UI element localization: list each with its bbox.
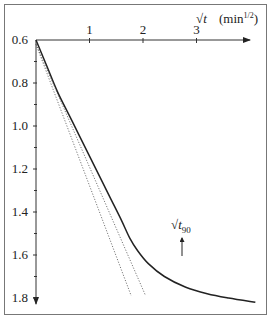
t90-label: √t90 xyxy=(171,217,191,235)
y-tick-label: 0.6 xyxy=(12,32,29,47)
tangent-line xyxy=(36,44,131,296)
x-axis-title: √t (min1/2) xyxy=(196,11,258,26)
y-tick-label: 1.6 xyxy=(12,247,29,262)
settlement-curve xyxy=(36,40,255,302)
x-tick-label: 1 xyxy=(86,22,93,37)
y-ticks: 0.60.81.01.21.41.61.8 xyxy=(12,32,37,305)
y-tick-label: 1.8 xyxy=(12,290,28,305)
x-tick-label: 2 xyxy=(140,22,147,37)
y-tick-label: 1.2 xyxy=(12,161,28,176)
tangent-line xyxy=(36,44,146,296)
y-tick-label: 1.4 xyxy=(12,204,29,219)
y-tick-label: 1.0 xyxy=(12,118,28,133)
series-group xyxy=(36,40,255,302)
y-tick-label: 0.8 xyxy=(12,75,28,90)
chart-canvas: 123 0.60.81.01.21.41.61.8 √t (min1/2) √t… xyxy=(0,0,274,322)
